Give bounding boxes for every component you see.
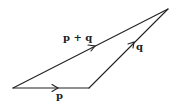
vector-q-line	[89, 9, 168, 88]
label-p: p	[56, 91, 63, 101]
arrow-q-icon	[128, 42, 134, 48]
vector-diagram: p + q q p	[0, 0, 184, 105]
vector-sum-line	[13, 9, 168, 88]
label-p-plus-q: p + q	[63, 33, 92, 43]
label-q: q	[136, 42, 143, 52]
vector-triangle-svg	[0, 0, 184, 105]
